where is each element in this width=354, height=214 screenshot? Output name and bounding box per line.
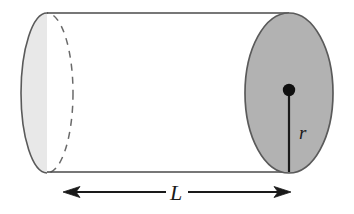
cylinder-figure: r L [0, 0, 354, 214]
center-point-dot [283, 84, 295, 96]
radius-label: r [299, 122, 307, 143]
cylinder-diagram-canvas: r L [0, 0, 354, 214]
length-label: L [169, 180, 182, 205]
